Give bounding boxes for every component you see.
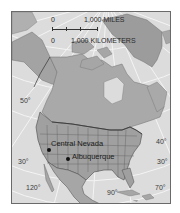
scale-bar-line bbox=[52, 29, 98, 30]
scale-miles-zero: 0 bbox=[51, 16, 55, 23]
lon-label-70: 70° bbox=[155, 184, 166, 191]
lat-label-40: 40° bbox=[156, 138, 167, 145]
lat-label-30-west: 30° bbox=[18, 158, 29, 165]
lat-label-30-east: 30° bbox=[157, 158, 168, 165]
scale-tick bbox=[97, 27, 98, 31]
lat-label-50: 50° bbox=[20, 97, 31, 104]
central-nevada-marker bbox=[47, 148, 51, 152]
scale-km-label: 1,000 KILOMETERS bbox=[71, 37, 136, 44]
scale-tick bbox=[80, 27, 81, 31]
central-nevada-label: Central Nevada bbox=[51, 140, 103, 148]
scale-tick bbox=[52, 27, 53, 31]
scale-miles-label: 1,000 MILES bbox=[84, 16, 124, 23]
albuquerque-marker bbox=[66, 157, 70, 161]
lon-label-120: 120° bbox=[26, 184, 40, 191]
map-frame: 0 1,000 MILES 0 1,000 KILOMETERS 50° 40°… bbox=[11, 11, 171, 204]
scale-tick bbox=[66, 27, 67, 31]
lon-label-90: 90° bbox=[107, 189, 118, 196]
albuquerque-label: Albuquerque bbox=[72, 153, 115, 161]
scale-km-zero: 0 bbox=[51, 37, 55, 44]
